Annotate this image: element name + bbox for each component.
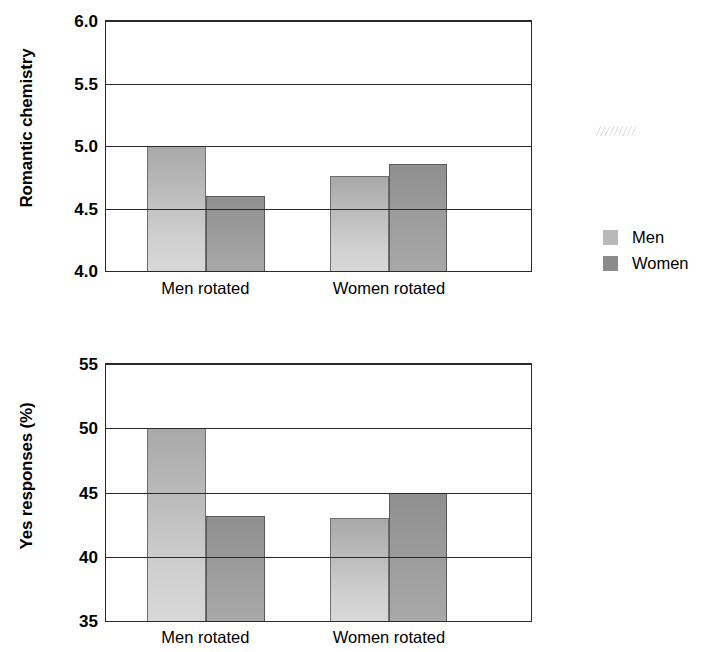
y-tick-label-40: 40: [79, 548, 98, 568]
plot-area: 3540455055: [105, 363, 532, 622]
y-tick-label-55: 55: [79, 355, 98, 375]
bar-women-men-rotated: [206, 196, 265, 271]
legend-label-women: Women: [632, 254, 689, 273]
x-category-label-1: Women rotated: [333, 279, 446, 298]
bar-men-men-rotated: [147, 428, 206, 621]
chart-page: { "chart_data": [ { "id": "romantic-chem…: [0, 0, 721, 652]
chart-panel-romantic-chemistry: Romantic chemistry 4.04.55.05.56.0 Men r…: [0, 0, 721, 326]
y-tick-label-4.5: 4.5: [74, 200, 98, 220]
y-axis-title: Yes responses (%): [17, 351, 37, 601]
y-tick-label-35: 35: [79, 612, 98, 632]
legend-label-men: Men: [632, 228, 664, 247]
y-tick-label-50: 50: [79, 419, 98, 439]
y-tick-label-5.5: 5.5: [74, 75, 98, 95]
y-tick-label-4.0: 4.0: [74, 262, 98, 282]
paper-smudge: [596, 126, 636, 136]
bar-group-container: [106, 21, 531, 271]
bar-group-container: [106, 364, 531, 621]
y-tick-label-5.0: 5.0: [74, 137, 98, 157]
x-category-label-1: Women rotated: [333, 628, 446, 647]
y-tick-label-6.0: 6.0: [74, 12, 98, 32]
gridline-35: 35: [106, 621, 531, 622]
legend-swatch-men-icon: [603, 230, 618, 245]
legend-swatch-women-icon: [603, 256, 618, 271]
plot-area: 4.04.55.05.56.0: [105, 20, 532, 272]
x-category-label-0: Men rotated: [161, 279, 249, 298]
bar-women-women-rotated: [389, 493, 448, 622]
legend: Men Women: [603, 224, 689, 276]
bar-men-women-rotated: [330, 176, 389, 271]
chart-panel-yes-responses: Yes responses (%) 3540455055 Men rotated…: [0, 326, 721, 652]
legend-item-women: Women: [603, 250, 689, 276]
x-category-label-0: Men rotated: [161, 628, 249, 647]
bar-men-men-rotated: [147, 146, 206, 271]
y-tick-label-45: 45: [79, 484, 98, 504]
legend-item-men: Men: [603, 224, 689, 250]
bar-men-women-rotated: [330, 518, 389, 621]
bar-women-women-rotated: [389, 164, 448, 272]
bar-women-men-rotated: [206, 516, 265, 621]
y-axis-title: Romantic chemistry: [17, 3, 37, 253]
gridline-4.0: 4.0: [106, 271, 531, 272]
